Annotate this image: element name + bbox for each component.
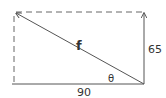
horizontal-component-label: 90 <box>77 86 91 98</box>
vertical-component-label: 65 <box>148 43 162 56</box>
resultant-label: f <box>76 38 82 53</box>
vector-diagram: f θ 65 90 <box>0 0 166 98</box>
angle-label: θ <box>108 73 114 84</box>
